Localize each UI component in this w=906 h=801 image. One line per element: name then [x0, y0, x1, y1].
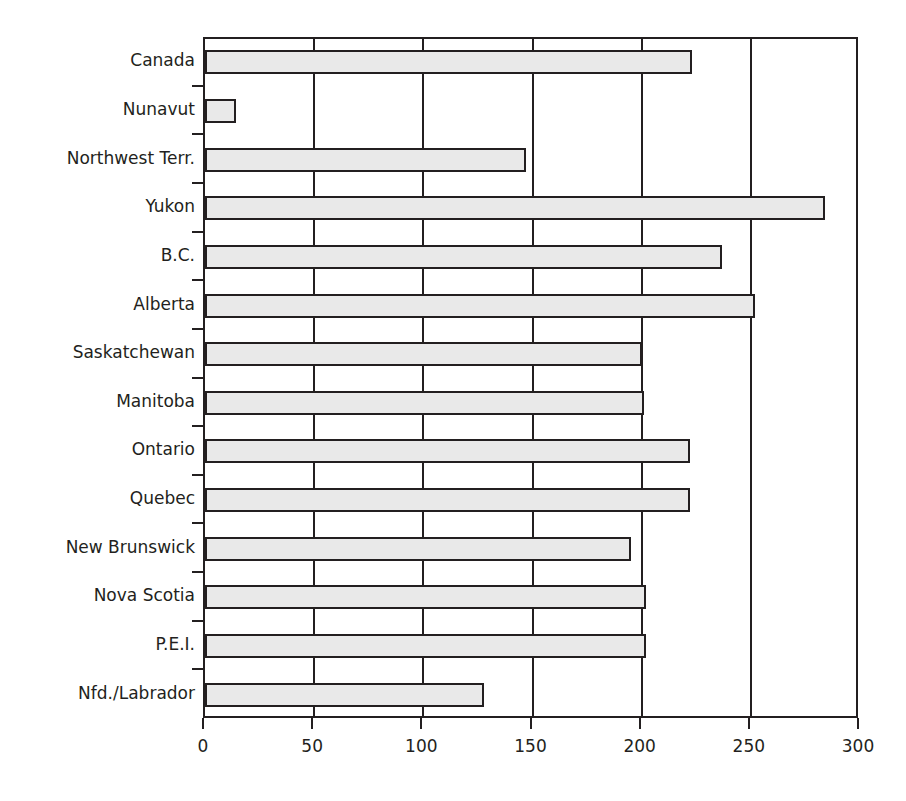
y-axis-label: Yukon	[0, 196, 195, 216]
bar	[205, 196, 825, 220]
x-axis-tick-label: 250	[714, 736, 784, 756]
bar	[205, 50, 692, 74]
chart-title	[74, 0, 634, 2]
x-axis-tick-150	[530, 718, 532, 729]
y-axis-tick	[192, 133, 203, 135]
y-axis-label: Nova Scotia	[0, 585, 195, 605]
y-axis-label: Canada	[0, 50, 195, 70]
y-axis-label: Saskatchewan	[0, 342, 195, 362]
y-axis-label: New Brunswick	[0, 537, 195, 557]
y-axis-tick	[192, 474, 203, 476]
y-axis-tick	[192, 328, 203, 330]
y-axis-label: Manitoba	[0, 391, 195, 411]
gridline-250	[750, 39, 752, 716]
x-axis-tick-200	[639, 718, 641, 729]
y-axis-tick	[192, 377, 203, 379]
y-axis-tick	[192, 425, 203, 427]
gridline-150	[532, 39, 534, 716]
x-axis-tick-0	[202, 718, 204, 729]
y-axis-tick	[192, 620, 203, 622]
y-axis-label: Alberta	[0, 294, 195, 314]
bar	[205, 148, 526, 172]
bar-chart: CanadaNunavutNorthwest Terr.YukonB.C.Alb…	[0, 0, 906, 801]
y-axis-tick	[192, 182, 203, 184]
x-axis-tick-label: 100	[386, 736, 456, 756]
gridline-200	[641, 39, 643, 716]
y-axis-label: Nunavut	[0, 99, 195, 119]
y-axis-tick	[192, 522, 203, 524]
x-axis-tick-label: 50	[277, 736, 347, 756]
gridline-50	[313, 39, 315, 716]
bar	[205, 537, 631, 561]
y-axis-tick	[192, 668, 203, 670]
plot-area	[203, 37, 858, 718]
bar	[205, 342, 642, 366]
x-axis-tick-100	[420, 718, 422, 729]
bar	[205, 488, 690, 512]
x-axis-tick-label: 300	[823, 736, 893, 756]
x-axis-tick-label: 150	[496, 736, 566, 756]
bar	[205, 585, 646, 609]
y-axis-tick	[192, 571, 203, 573]
bar	[205, 294, 755, 318]
gridline-100	[422, 39, 424, 716]
y-axis-label: Quebec	[0, 488, 195, 508]
x-axis-tick-label: 0	[168, 736, 238, 756]
x-axis-tick-label: 200	[605, 736, 675, 756]
bar	[205, 439, 690, 463]
x-axis-tick-250	[748, 718, 750, 729]
bar	[205, 634, 646, 658]
y-axis-label: Nfd./Labrador	[0, 683, 195, 703]
x-axis-tick-50	[311, 718, 313, 729]
y-axis-tick	[192, 279, 203, 281]
x-axis-tick-300	[857, 718, 859, 729]
bar	[205, 391, 644, 415]
bar	[205, 245, 722, 269]
y-axis-label: P.E.I.	[0, 634, 195, 654]
bar	[205, 683, 484, 707]
y-axis-tick	[192, 85, 203, 87]
bar	[205, 99, 236, 123]
y-axis-label: B.C.	[0, 245, 195, 265]
y-axis-label: Northwest Terr.	[0, 148, 195, 168]
y-axis-label: Ontario	[0, 439, 195, 459]
y-axis-tick	[192, 231, 203, 233]
